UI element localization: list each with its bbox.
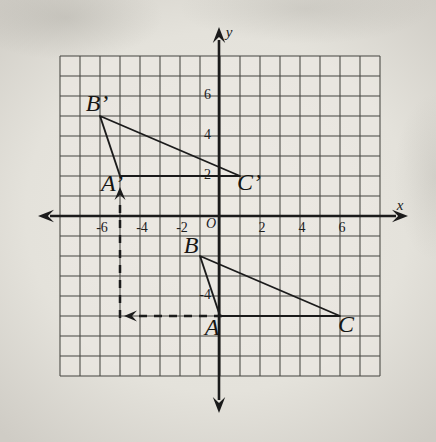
coordinate-plane: xy-6-4-2246642-4OA’B’C’ABC bbox=[0, 0, 436, 442]
vertex-label-A: A bbox=[203, 314, 220, 340]
textbook-figure: xy-6-4-2246642-4OA’B’C’ABC bbox=[0, 0, 436, 442]
vertex-label-A-prime: A’ bbox=[99, 170, 123, 196]
y-axis-label: y bbox=[224, 24, 233, 40]
origin-label: O bbox=[206, 216, 216, 231]
y-tick-label: 4 bbox=[204, 127, 211, 142]
x-tick-label: 2 bbox=[259, 220, 266, 235]
x-tick-label: 4 bbox=[299, 220, 306, 235]
x-axis-label: x bbox=[396, 197, 404, 213]
vertex-label-C-prime: C’ bbox=[237, 169, 261, 195]
vertex-label-C: C bbox=[338, 311, 355, 337]
y-tick-label: 2 bbox=[204, 167, 211, 182]
x-tick-label: 6 bbox=[339, 220, 346, 235]
y-tick-label: 6 bbox=[204, 87, 211, 102]
x-tick-label: -6 bbox=[96, 220, 108, 235]
x-tick-label: -4 bbox=[136, 220, 148, 235]
vertex-label-B-prime: B’ bbox=[86, 90, 109, 116]
y-tick-label: -4 bbox=[199, 287, 211, 302]
vertex-label-B: B bbox=[184, 232, 199, 258]
